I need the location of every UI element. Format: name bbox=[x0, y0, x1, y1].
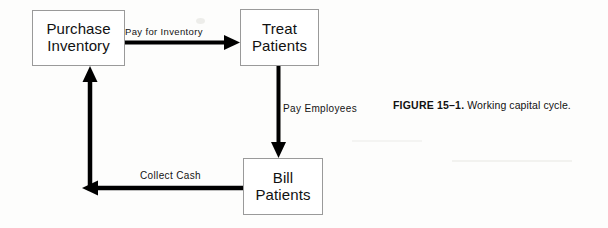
node-purchase-inventory: Purchase Inventory bbox=[32, 10, 125, 66]
edge-label-pay-employees: Pay Employees bbox=[283, 103, 357, 114]
edge-label-collect-cash: Collect Cash bbox=[140, 170, 201, 181]
node-label-line-2: Inventory bbox=[47, 38, 110, 55]
figure-page: Purchase Inventory Treat Patients Bill P… bbox=[0, 0, 608, 228]
node-label-line-2: Patients bbox=[256, 187, 311, 204]
node-label-line-1: Purchase bbox=[46, 21, 110, 38]
node-label-line-2: Patients bbox=[252, 38, 307, 55]
arrow-pay-for-inventory bbox=[125, 35, 240, 50]
node-bill-patients: Bill Patients bbox=[243, 158, 323, 215]
edge-label-pay-for-inventory: Pay for Inventory bbox=[125, 26, 203, 37]
node-label-line-1: Treat bbox=[262, 21, 297, 38]
node-treat-patients: Treat Patients bbox=[240, 9, 319, 66]
node-label-line-1: Bill bbox=[273, 170, 293, 187]
